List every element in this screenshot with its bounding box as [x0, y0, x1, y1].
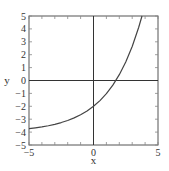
series-group — [29, 16, 142, 129]
y-tick-label: −1 — [15, 88, 26, 99]
y-tick-label: −2 — [15, 101, 26, 112]
y-axis-label: y — [4, 74, 10, 86]
y-tick-label: 4 — [21, 23, 26, 34]
y-tick-label: −3 — [15, 114, 26, 125]
x-axis-label: x — [91, 154, 97, 166]
y-tick-labels: −5−4−3−2−1012345 — [15, 11, 26, 151]
series-line-curve — [29, 16, 142, 129]
x-tick-label: 5 — [156, 147, 161, 158]
y-tick-label: 5 — [21, 11, 26, 22]
y-tick-label: −4 — [15, 127, 26, 138]
y-tick-label: 3 — [21, 36, 26, 47]
y-tick-label: 1 — [21, 62, 26, 73]
y-tick-label: 2 — [21, 49, 26, 60]
function-plot: −5−4−3−2−1012345 −505 x y — [0, 0, 169, 171]
x-tick-label: −5 — [24, 147, 35, 158]
y-tick-label: 0 — [21, 75, 26, 86]
